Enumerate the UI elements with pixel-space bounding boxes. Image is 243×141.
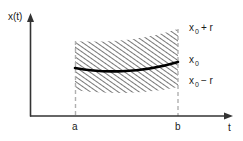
figure-container: x(t) t a b x 0 + r x 0 x 0 − r [0, 0, 243, 141]
x-axis [30, 113, 233, 120]
annotation-center-subscript: 0 [195, 60, 199, 67]
x-axis-arrowhead [224, 113, 233, 120]
uncertainty-band [70, 22, 185, 100]
y-axis [27, 13, 34, 117]
band-hatch-fill [70, 22, 185, 100]
annotation-upper-bound: x 0 + r [189, 22, 214, 35]
annotation-upper-subscript: 0 [195, 28, 199, 35]
annotation-upper-base: x [189, 22, 194, 33]
annotation-lower-subscript: 0 [195, 81, 199, 88]
annotation-lower-bound: x 0 − r [189, 75, 214, 88]
y-axis-arrowhead [27, 13, 34, 22]
x-tick-label-b: b [175, 121, 181, 132]
annotation-lower-base: x [189, 75, 194, 86]
tolerance-band-diagram: x(t) t a b x 0 + r x 0 x 0 − r [0, 0, 243, 141]
x-tick-label-a: a [72, 121, 78, 132]
x-axis-label: t [228, 122, 231, 133]
annotation-lower-tail: − r [201, 75, 214, 86]
y-axis-label: x(t) [8, 11, 22, 22]
annotation-center-base: x [189, 54, 194, 65]
annotation-upper-tail: + r [201, 22, 214, 33]
annotation-center-value: x 0 [189, 54, 199, 67]
